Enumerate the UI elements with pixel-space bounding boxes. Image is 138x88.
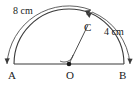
point-label-c: C [84, 22, 91, 33]
angle-arc-at-o [60, 55, 73, 62]
geometry-figure: A O B C 8 cm 4 cm [0, 0, 138, 88]
point-label-o: O [66, 70, 74, 81]
arrowhead-left-arc-start [5, 58, 10, 64]
measurement-label-right: 4 cm [104, 27, 124, 37]
measure-arc-right [92, 12, 130, 64]
measurement-label-left: 8 cm [13, 6, 33, 16]
point-label-a: A [8, 70, 16, 81]
point-label-b: B [119, 70, 126, 81]
arrowhead-right-arc-end [127, 59, 132, 64]
centre-point-dot [67, 62, 72, 67]
